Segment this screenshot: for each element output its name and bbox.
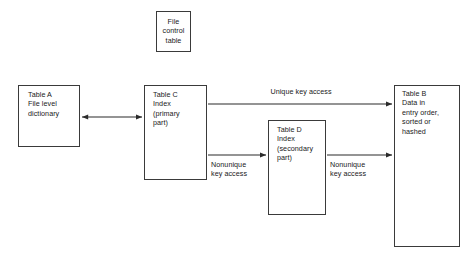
diagram-canvas: File control table Table A File level di… — [0, 0, 473, 260]
node-table-a-label: Table A File level dictionary — [28, 90, 82, 118]
node-table-b-label: Table B Data in entry order, sorted or h… — [402, 89, 464, 136]
edge-label-nonunique-key-access-d-b: Nonunique key access — [330, 160, 386, 179]
node-table-d-label: Table D Index (secondary part) — [277, 125, 335, 163]
edge-label-unique-key-access: Unique key access — [238, 87, 364, 96]
node-table-c-label: Table C Index (primary part) — [153, 90, 209, 128]
edge-label-nonunique-key-access-c-d: Nonunique key access — [211, 160, 267, 179]
node-file-control-table-label: File control table — [156, 17, 191, 45]
